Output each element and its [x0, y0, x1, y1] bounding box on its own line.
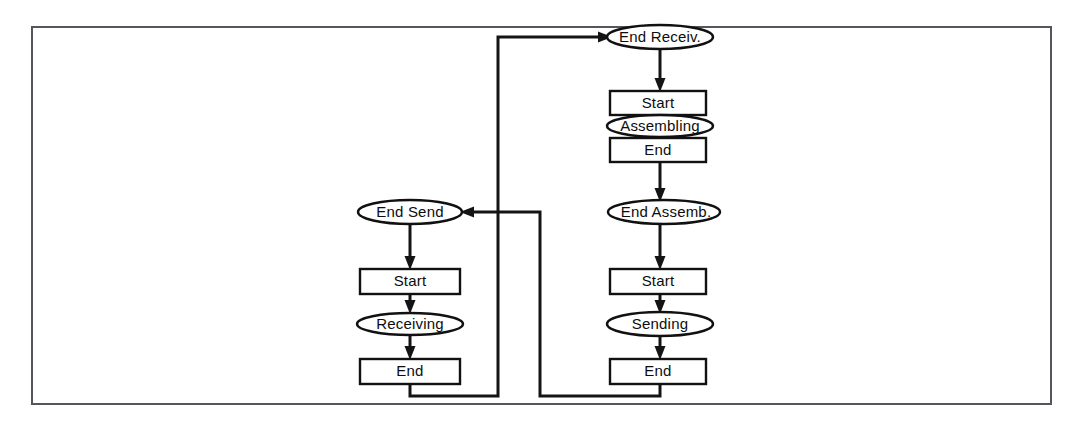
edge-end-assembling-to-end-assemb [655, 162, 666, 202]
node-end-sending[interactable]: End [610, 359, 706, 384]
edge-end-assemb-to-start-sending [655, 224, 666, 270]
edge-end-receive-to-start-assembling [655, 49, 666, 92]
sending-label: Sending [632, 315, 688, 332]
node-end-receive[interactable]: End Receiv. [607, 25, 713, 49]
node-receiving[interactable]: Receiving [357, 313, 463, 335]
node-end-assemb[interactable]: End Assemb. [608, 200, 720, 224]
assembling-label: Assembling [620, 117, 700, 134]
start-receiving-label: Start [394, 272, 427, 289]
node-start-receiving[interactable]: Start [360, 269, 460, 294]
start-assembling-label: Start [642, 94, 675, 111]
end-assembling-label: End [644, 141, 671, 158]
edge-sending-to-end-sending [655, 336, 666, 360]
end-receiving-label: End [396, 362, 423, 379]
edge-receiving-to-end-receiving [405, 335, 416, 360]
node-end-receiving[interactable]: End [360, 359, 460, 384]
edge-start-receiving-to-receiving [405, 294, 416, 314]
diagram-canvas: End Receiv. Start Assembling End End Ass… [0, 0, 1082, 425]
receiving-label: Receiving [376, 315, 444, 332]
node-start-assembling[interactable]: Start [610, 91, 706, 115]
node-sending[interactable]: Sending [607, 312, 713, 336]
end-send-label: End Send [376, 203, 444, 220]
end-assemb-label: End Assemb. [621, 203, 712, 220]
node-end-assembling[interactable]: End [610, 138, 706, 162]
edge-end-send-to-start-receiving [405, 224, 416, 270]
start-sending-label: Start [642, 272, 675, 289]
end-receive-label: End Receiv. [619, 28, 701, 45]
node-start-sending[interactable]: Start [610, 269, 706, 294]
node-end-send[interactable]: End Send [358, 200, 462, 224]
end-sending-label: End [644, 362, 671, 379]
state-diagram: End Receiv. Start Assembling End End Ass… [0, 0, 1082, 425]
node-assembling[interactable]: Assembling [607, 115, 713, 137]
